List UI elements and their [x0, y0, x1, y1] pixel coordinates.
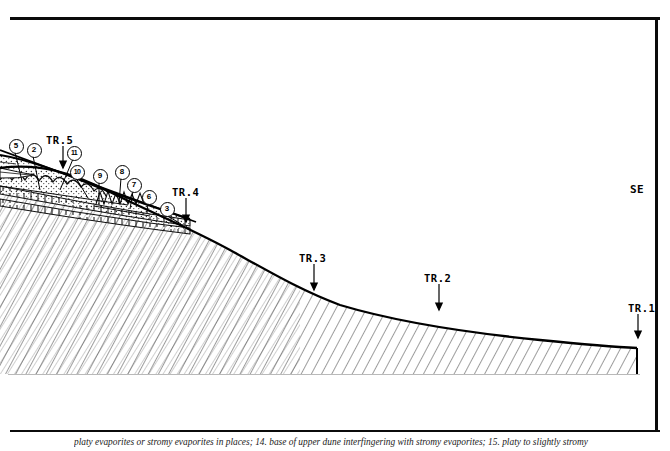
key-number-9: 9 — [93, 169, 108, 184]
figure-caption: platy evaporites or stromy evaporites in… — [74, 436, 660, 448]
trench-arrow-head-1 — [60, 161, 66, 168]
key-number-10: 10 — [70, 165, 85, 180]
trench-arrow-head-2 — [183, 215, 189, 222]
key-number-11: 11 — [67, 146, 82, 161]
key-number-7: 7 — [127, 178, 142, 193]
direction-label-se: SE — [630, 183, 644, 196]
trench-arrow-head-4 — [436, 303, 442, 310]
trench-arrow-head-5 — [635, 331, 641, 338]
trench-arrow-head-3 — [311, 283, 317, 290]
trench-label-tr3: TR.3 — [299, 252, 326, 264]
trench-arrows — [0, 0, 670, 451]
trench-label-tr2: TR.2 — [424, 272, 451, 284]
key-number-8: 8 — [115, 165, 130, 180]
key-number-2: 2 — [27, 143, 42, 158]
trench-label-tr1: TR.1 — [628, 302, 655, 314]
trench-label-tr4: TR.4 — [172, 186, 199, 198]
trench-label-tr5: TR.5 — [46, 134, 73, 146]
key-number-6: 6 — [142, 190, 157, 205]
key-number-3: 3 — [160, 202, 175, 217]
key-number-5: 5 — [9, 139, 24, 154]
figure-container: SE TR.5TR.4TR.3TR.2TR.1 52111098763 plat… — [0, 0, 670, 451]
